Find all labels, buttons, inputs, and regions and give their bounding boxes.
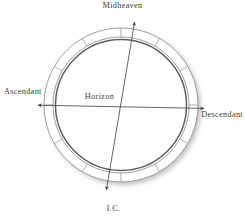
ic-label: I.C. bbox=[0, 205, 236, 213]
midheaven-label: Midheaven bbox=[0, 2, 245, 10]
horizon-label: Horizon bbox=[0, 93, 222, 101]
descendant-label: Descendant bbox=[201, 111, 243, 119]
astrology-axes-diagram: Midheaven I.C. Ascendant Descendant Hori… bbox=[0, 0, 245, 219]
